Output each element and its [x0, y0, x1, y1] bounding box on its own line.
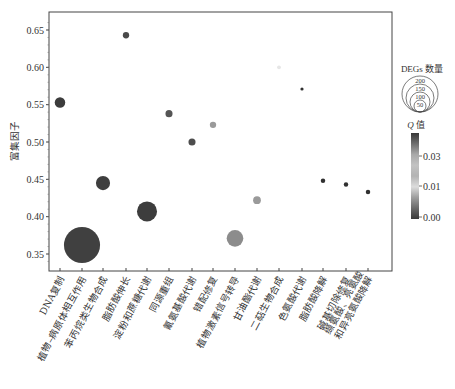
y-tick-label: 0.45: [27, 174, 45, 185]
bubble-point: [55, 97, 66, 108]
y-axis-ticks: 0.350.400.450.500.550.600.65: [27, 23, 50, 262]
plot-axes: [49, 12, 392, 271]
size-legend-label: 150: [415, 85, 425, 92]
size-legend: DEGs 数量 20015010050: [401, 63, 443, 112]
y-tick-label: 0.40: [27, 211, 45, 222]
y-tick-label: 0.55: [27, 99, 45, 110]
y-tick-label: 0.50: [27, 137, 45, 148]
bubble-point: [123, 32, 129, 38]
plot-frame: [49, 12, 392, 271]
size-legend-title: DEGs 数量: [401, 63, 443, 74]
bubble-point: [227, 230, 244, 247]
bubble-point: [165, 110, 172, 117]
bubble-point: [344, 182, 348, 186]
bubble-point: [96, 176, 110, 190]
size-legend-label: 100: [415, 93, 425, 100]
x-axis-category-labels: DNA复制植物–病原体相互作用苯丙烷类生物合成脂肪酸伸长淀粉和蔗糖代谢同源重组氰…: [35, 269, 375, 363]
bubble-point: [210, 122, 216, 128]
y-tick-label: 0.60: [27, 62, 45, 73]
bubble-point: [253, 196, 261, 204]
bubble-point: [64, 227, 100, 263]
color-legend-title: Q 值: [407, 119, 425, 130]
y-tick-label: 0.65: [27, 25, 45, 36]
size-legend-label: 200: [415, 77, 425, 84]
colorbar-tick-label: 0.01: [423, 181, 441, 192]
bubble-point: [277, 65, 281, 69]
size-legend-label: 50: [417, 101, 424, 108]
bubble-point: [366, 190, 370, 194]
colorbar-tick-label: 0.00: [423, 212, 441, 223]
bubble-point: [188, 138, 195, 145]
bubble-point: [321, 179, 325, 183]
colorbar-tick-label: 0.03: [423, 151, 441, 162]
q-value-colorbar: [411, 133, 419, 219]
color-legend: Q 值 0.030.010.00: [407, 119, 440, 223]
y-axis-label: 富集因子: [9, 121, 20, 161]
enrichment-bubble-chart: 0.350.400.450.500.550.600.65 富集因子 DNA复制植…: [0, 0, 455, 389]
bubble-point: [300, 87, 303, 90]
y-tick-label: 0.35: [27, 249, 45, 260]
bubble-point: [137, 201, 157, 221]
